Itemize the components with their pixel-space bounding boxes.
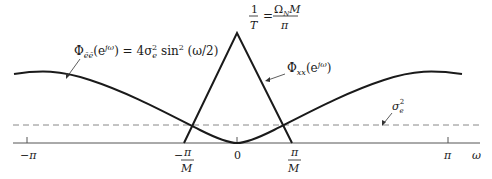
- tick-label-neg-pi-over-m: − π M: [174, 146, 194, 175]
- svg-text:M: M: [180, 162, 193, 175]
- tick-label-neg-pi: −π: [20, 149, 37, 162]
- svg-text:M: M: [287, 162, 300, 175]
- peak-label: 1 T = ΩNM π: [249, 3, 301, 32]
- tick-label-pi: π: [443, 149, 452, 162]
- psd-diagram: Φẽẽ(ejω) = 4σe2 sin2 (ω/2) 1 T = ΩNM π Φ…: [0, 0, 492, 179]
- signal-psd-label: Φxx(ejω): [287, 60, 331, 77]
- noise-variance-pointer: [384, 113, 392, 123]
- tick-label-zero: 0: [234, 149, 241, 162]
- omega-axis-label: ω: [472, 149, 481, 162]
- svg-text:1: 1: [251, 3, 258, 16]
- signal-psd-arrowhead: [265, 77, 270, 82]
- noise-variance-label: σe2: [392, 98, 404, 115]
- svg-text:=: =: [263, 9, 273, 23]
- svg-text:π: π: [183, 146, 192, 159]
- svg-text:π: π: [280, 19, 289, 32]
- svg-text:T: T: [250, 19, 259, 32]
- svg-text:π: π: [290, 146, 299, 159]
- signal-psd-pointer: [268, 74, 285, 80]
- noise-psd-label: Φẽẽ(ejω) = 4σe2 sin2 (ω/2): [74, 43, 218, 60]
- tick-label-pi-over-m: π M: [287, 146, 301, 175]
